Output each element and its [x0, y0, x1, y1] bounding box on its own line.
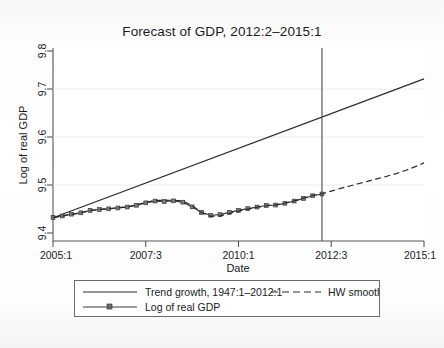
- figure-canvas: Forecast of GDP, 2012:2–2015:1 9.4 9.5 9…: [0, 0, 444, 348]
- legend-label-hw-smooth: HW smooth: [328, 286, 379, 298]
- x-tick-labels: 2005:1 2007:3 2010:1 2012:3 2015:1: [40, 249, 436, 261]
- legend-label-trend: Trend growth, 1947:1–2012:1: [145, 286, 283, 298]
- data-point-marker: [153, 199, 157, 203]
- y-tick-label-4: 9.8: [36, 44, 48, 59]
- x-axis-ticks: [53, 241, 424, 247]
- y-tick-label-3: 9.7: [36, 82, 48, 97]
- y-tick-label-1: 9.5: [36, 178, 48, 193]
- legend-key-trend[interactable]: Trend growth, 1947:1–2012:1: [83, 286, 283, 298]
- chart-legend: Trend growth, 1947:1–2012:1 HW smooth Lo…: [74, 280, 380, 317]
- legend-label-log-real-gdp: Log of real GDP: [145, 301, 220, 313]
- y-axis-ticks: [47, 51, 53, 233]
- x-axis-title: Date: [226, 262, 249, 274]
- legend-key-log-real-gdp[interactable]: Log of real GDP: [83, 301, 220, 313]
- y-axis-title: Log of real GDP: [17, 106, 29, 185]
- y-tick-labels: 9.4 9.5 9.6 9.7 9.8: [36, 44, 48, 241]
- x-tick-label-3: 2012:3: [315, 249, 347, 261]
- y-tick-label-2: 9.6: [36, 130, 48, 145]
- x-tick-label-1: 2007:3: [130, 249, 162, 261]
- x-tick-label-2: 2010:1: [222, 249, 254, 261]
- legend-key-hw-smooth[interactable]: HW smooth: [271, 286, 379, 298]
- y-tick-label-0: 9.4: [36, 226, 48, 241]
- legend-content: Trend growth, 1947:1–2012:1 HW smooth Lo…: [75, 281, 379, 316]
- legend-swatch-gdp-marker: [107, 304, 112, 309]
- x-tick-label-0: 2005:1: [40, 249, 72, 261]
- x-tick-label-4: 2015:1: [404, 249, 436, 261]
